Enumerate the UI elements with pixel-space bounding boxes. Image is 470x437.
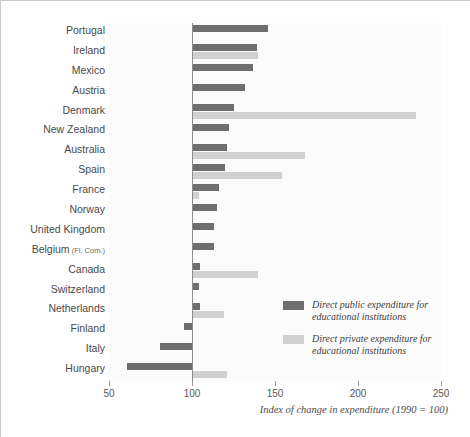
- baseline-100: [192, 23, 193, 381]
- axis-tick: [441, 381, 442, 386]
- axis-tick-label: 200: [350, 388, 367, 399]
- category-label: Mexico: [1, 64, 105, 76]
- category-label: Belgium (Fl. Com.): [1, 243, 105, 257]
- category-label: United Kingdom: [1, 223, 105, 235]
- category-label: Australia: [1, 143, 105, 155]
- bar-public: [192, 204, 217, 211]
- bar-row: [109, 122, 441, 141]
- bar-private: [192, 371, 227, 378]
- legend: Direct public expenditure for educationa…: [283, 299, 463, 367]
- bar-row: [109, 83, 441, 102]
- category-label: Denmark: [1, 104, 105, 116]
- category-axis-labels: PortugalIrelandMexicoAustriaDenmarkNew Z…: [1, 23, 105, 381]
- legend-item-private: Direct private expenditure for education…: [283, 333, 463, 357]
- bar-private: [192, 311, 224, 318]
- category-label: Switzerland: [1, 283, 105, 295]
- bar-row: [109, 242, 441, 261]
- bar-private: [192, 112, 416, 119]
- axis-tick-label: 250: [433, 388, 450, 399]
- bar-row: [109, 23, 441, 42]
- bar-row: [109, 202, 441, 221]
- legend-label-private: Direct private expenditure for education…: [312, 333, 463, 357]
- bar-row: [109, 182, 441, 201]
- bar-public: [127, 363, 192, 370]
- bar-row: [109, 63, 441, 82]
- bar-public: [192, 243, 214, 250]
- bar-private: [192, 152, 305, 159]
- bar-public: [192, 144, 227, 151]
- bar-public: [192, 84, 245, 91]
- bar-public: [192, 303, 200, 310]
- axis-tick: [275, 381, 276, 386]
- bar-public: [192, 25, 268, 32]
- chart-frame: PortugalIrelandMexicoAustriaDenmarkNew Z…: [0, 0, 470, 437]
- category-label: Spain: [1, 163, 105, 175]
- bar-public: [192, 223, 214, 230]
- category-label: Austria: [1, 84, 105, 96]
- bar-row: [109, 142, 441, 161]
- bar-public: [160, 343, 192, 350]
- legend-swatch-public: [283, 301, 304, 310]
- axis-caption: Index of change in expenditure (1990 = 1…: [260, 404, 448, 415]
- bar-public: [184, 323, 192, 330]
- bar-public: [192, 104, 234, 111]
- axis-tick-label: 150: [267, 388, 284, 399]
- category-label: Netherlands: [1, 302, 105, 314]
- category-label: New Zealand: [1, 123, 105, 135]
- bar-row: [109, 162, 441, 181]
- axis-tick-label: 50: [103, 388, 114, 399]
- axis-tick: [109, 381, 110, 386]
- bar-public: [192, 124, 229, 131]
- bar-public: [192, 64, 253, 71]
- bar-public: [192, 184, 219, 191]
- category-label: Hungary: [1, 362, 105, 374]
- category-label: Norway: [1, 203, 105, 215]
- category-label-sub: (Fl. Com.): [70, 246, 105, 255]
- axis-tick: [192, 381, 193, 386]
- category-label: Canada: [1, 263, 105, 275]
- bar-row: [109, 43, 441, 62]
- category-label: Finland: [1, 322, 105, 334]
- bar-public: [192, 44, 257, 51]
- bar-row: [109, 103, 441, 122]
- bar-private: [192, 271, 258, 278]
- legend-label-public: Direct public expenditure for educationa…: [312, 299, 463, 323]
- category-label: Portugal: [1, 24, 105, 36]
- category-label: Italy: [1, 342, 105, 354]
- legend-item-public: Direct public expenditure for educationa…: [283, 299, 463, 323]
- bar-private: [192, 52, 258, 59]
- bar-public: [192, 263, 200, 270]
- bar-private: [192, 172, 282, 179]
- axis-tick: [358, 381, 359, 386]
- bar-row: [109, 222, 441, 241]
- bar-public: [192, 164, 225, 171]
- category-label: Ireland: [1, 44, 105, 56]
- legend-swatch-private: [283, 335, 304, 344]
- category-label: France: [1, 183, 105, 195]
- bar-row: [109, 262, 441, 281]
- axis-tick-label: 100: [184, 388, 201, 399]
